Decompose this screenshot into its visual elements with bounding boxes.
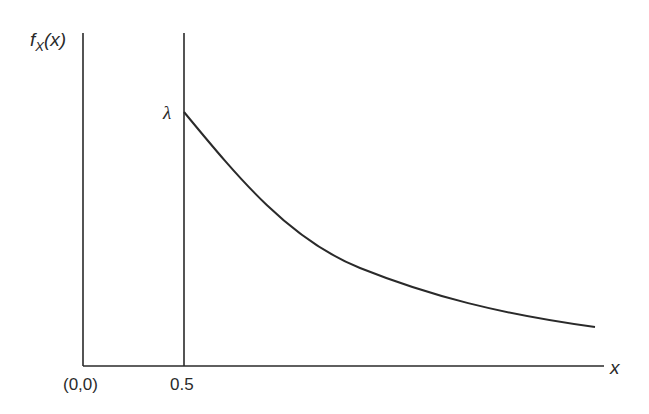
x-tick-label-0.5: 0.5 <box>170 375 194 394</box>
y-axis-label: fX(x) <box>30 29 66 54</box>
density-plot: fX(x) λ (0,0) 0.5 x <box>0 0 649 414</box>
origin-label: (0,0) <box>63 375 98 394</box>
lambda-label: λ <box>162 102 171 123</box>
density-curve <box>184 112 595 327</box>
x-axis-label: x <box>609 357 621 378</box>
